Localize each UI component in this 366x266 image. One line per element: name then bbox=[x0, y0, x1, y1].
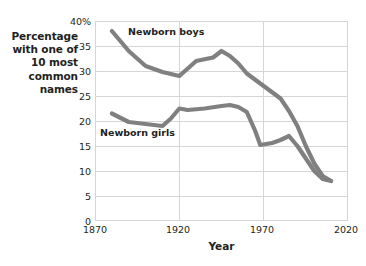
x-axis-title: Year bbox=[95, 240, 348, 252]
x-axis-tick-labels: 1870 1920 1970 2020 bbox=[0, 0, 366, 266]
chart-container: Percentage with one of 10 most common na… bbox=[0, 0, 366, 266]
x-tick-label: 1970 bbox=[240, 224, 284, 235]
x-tick-label: 1870 bbox=[73, 224, 117, 235]
x-tick-label: 1920 bbox=[156, 224, 200, 235]
x-tick-label: 2020 bbox=[324, 224, 366, 235]
